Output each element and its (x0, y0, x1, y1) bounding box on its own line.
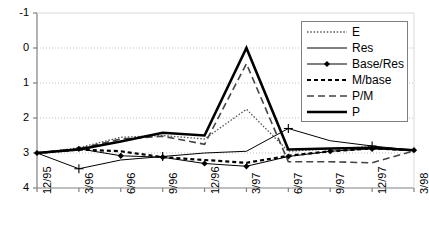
series-marker-base-res (118, 153, 124, 159)
series-marker-base-res (243, 163, 249, 169)
legend-swatch-icon (305, 41, 349, 55)
legend-label: P (349, 106, 360, 118)
x-tick-label: 3/98 (419, 173, 429, 194)
y-tick-label: 2 (13, 112, 29, 123)
y-tick-label: 3 (13, 147, 29, 158)
y-tick-label: 1 (13, 77, 29, 88)
x-tick-label: 12/97 (377, 166, 388, 194)
legend-item-p[interactable]: P (305, 104, 404, 120)
x-tick-label: 9/96 (168, 173, 179, 194)
legend-label: M/base (349, 74, 391, 86)
x-tick-label: 6/96 (126, 173, 137, 194)
legend-label: E (349, 26, 360, 38)
chart-legend: EResBase/ResM/baseP/MP (301, 21, 408, 122)
legend-item-m-base[interactable]: M/base (305, 72, 404, 88)
legend-item-base-res[interactable]: Base/Res (305, 56, 404, 72)
chart-container: 43210-1 12/953/966/969/9612/963/976/979/… (0, 0, 429, 234)
legend-item-p-m[interactable]: P/M (305, 88, 404, 104)
x-tick-label: 3/97 (251, 173, 262, 194)
x-tick-label: 12/95 (42, 166, 53, 194)
y-tick-label: -1 (13, 7, 29, 18)
series-line-m-base (37, 148, 414, 162)
legend-swatch-icon (305, 73, 349, 87)
legend-swatch-icon (305, 89, 349, 103)
legend-swatch-icon (305, 57, 349, 71)
legend-swatch-icon (305, 105, 349, 119)
x-tick-label: 12/96 (210, 166, 221, 194)
y-tick-label: 0 (13, 42, 29, 53)
legend-swatch-icon (305, 25, 349, 39)
x-tick-label: 6/97 (293, 173, 304, 194)
series-marker-base-res (201, 160, 207, 166)
x-tick-label: 9/97 (335, 173, 346, 194)
legend-label: Base/Res (349, 58, 404, 70)
legend-label: Res (349, 42, 373, 54)
legend-item-e[interactable]: E (305, 24, 404, 40)
series-line-base-res (37, 149, 414, 167)
legend-label: P/M (349, 90, 373, 102)
legend-item-res[interactable]: Res (305, 40, 404, 56)
x-tick-label: 3/96 (84, 173, 95, 194)
y-tick-label: 4 (13, 182, 29, 193)
